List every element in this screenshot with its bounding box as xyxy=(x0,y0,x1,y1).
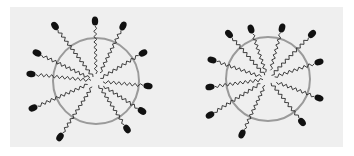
surfactant-head xyxy=(314,93,325,102)
surfactant-head xyxy=(92,16,99,25)
surfactant-tail xyxy=(38,84,88,106)
surfactant-head xyxy=(204,110,215,120)
surfactant-head xyxy=(207,55,218,64)
surfactant-head xyxy=(136,106,147,116)
micelle-right xyxy=(204,23,324,140)
surfactant-head xyxy=(55,131,65,142)
surfactant-head xyxy=(137,48,148,58)
surfactant-tail xyxy=(94,26,98,74)
micelle-figure xyxy=(0,0,354,156)
surfactant-head xyxy=(314,58,325,67)
surfactant-head xyxy=(278,23,287,34)
surfactant-tail xyxy=(36,74,91,82)
surfactant-head xyxy=(50,20,61,31)
surfactant-head xyxy=(246,24,255,35)
micelle-left xyxy=(26,16,153,142)
surfactant-head xyxy=(28,103,39,113)
surfactant-head xyxy=(143,82,153,89)
surfactant-head xyxy=(297,116,308,127)
surfactant-head xyxy=(118,20,128,31)
surfactant-head xyxy=(224,28,235,39)
surfactant-head xyxy=(205,83,215,91)
surfactant-tail xyxy=(42,55,90,78)
surfactant-tail xyxy=(217,61,262,77)
surfactant-tail xyxy=(215,79,263,88)
surfactant-head xyxy=(31,48,42,58)
surfactant-tail xyxy=(253,34,267,73)
micelles-group xyxy=(26,16,324,142)
surfactant-tail xyxy=(63,87,92,133)
surfactant-tail xyxy=(103,81,143,87)
surfactant-head xyxy=(237,128,247,139)
surfactant-tail xyxy=(244,85,265,129)
surfactant-tail xyxy=(104,86,138,108)
surfactant-tail xyxy=(99,85,125,125)
surfactant-head xyxy=(26,70,36,77)
micelle-boundary-circle xyxy=(226,37,310,121)
surfactant-head xyxy=(122,123,132,134)
